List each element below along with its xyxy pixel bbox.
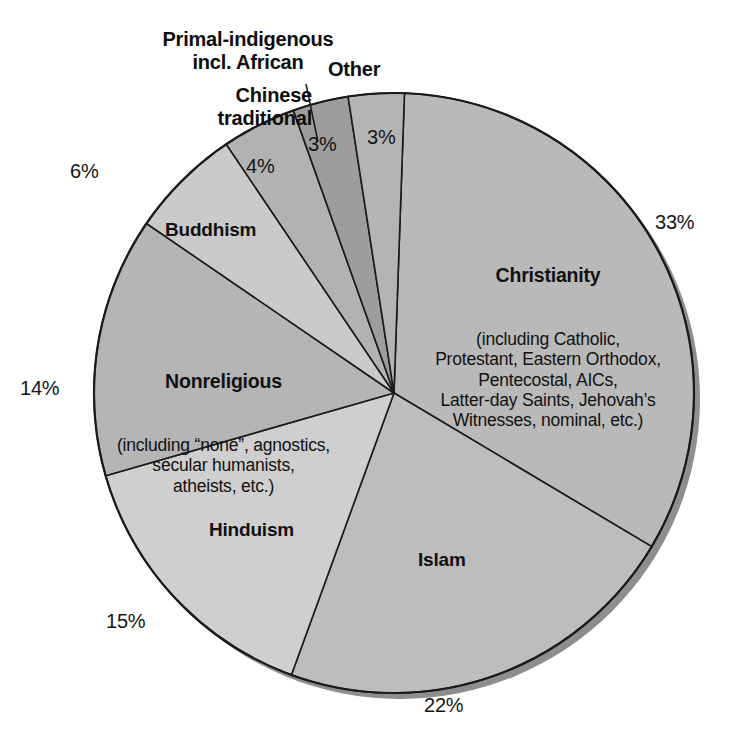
callout-chinese-traditional: Chinese traditional bbox=[122, 84, 312, 130]
pie-chart-figure: Primal-indigenous incl. African Other Ch… bbox=[0, 0, 747, 733]
percent-hinduism: 15% bbox=[106, 610, 145, 633]
percent-islam: 22% bbox=[424, 694, 463, 717]
label-buddhism: Buddhism bbox=[165, 219, 256, 241]
label-christianity: Christianity (including Catholic, Protes… bbox=[403, 222, 693, 472]
label-nonreligious-title: Nonreligious bbox=[91, 370, 356, 393]
label-hinduism: Hinduism bbox=[209, 519, 294, 541]
callout-other: Other bbox=[328, 58, 428, 81]
percent-chinese-traditional: 4% bbox=[246, 155, 275, 178]
callout-primal-indigenous: Primal-indigenous incl. African bbox=[148, 28, 348, 74]
label-christianity-title: Christianity bbox=[403, 264, 693, 287]
percent-primal-indigenous: 3% bbox=[308, 133, 337, 156]
label-islam: Islam bbox=[418, 549, 466, 571]
percent-nonreligious: 14% bbox=[20, 377, 59, 400]
label-nonreligious: Nonreligious (including “none”, agnostic… bbox=[91, 328, 356, 538]
label-christianity-detail: (including Catholic, Protestant, Eastern… bbox=[403, 329, 693, 430]
percent-buddhism: 6% bbox=[70, 160, 99, 183]
label-nonreligious-detail: (including “none”, agnostics, secular hu… bbox=[91, 435, 356, 496]
percent-other: 3% bbox=[367, 126, 396, 149]
